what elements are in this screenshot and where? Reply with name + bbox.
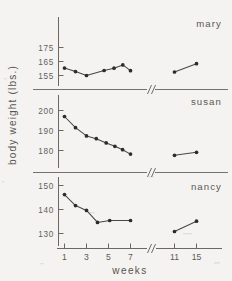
panel-susan-ytick-190: 190 (38, 127, 54, 136)
panel-mary-yticks: 175 165 155 (38, 44, 63, 81)
chart-canvas: 1 3 5 7 11 15 weeks body weight (lbs.) 1… (0, 0, 232, 281)
panel-mary-ytick-155: 155 (38, 72, 54, 81)
panel-mary-ytick-175: 175 (38, 44, 54, 53)
xtick-label-7: 7 (128, 252, 133, 262)
x-axis-tickmarks (65, 244, 197, 249)
panel-mary-series-mary (63, 62, 199, 77)
panel-mary-datapoints (63, 62, 199, 77)
panel-susan-yticks: 200 190 180 (38, 107, 63, 156)
panel-susan: 200 190 180 (38, 96, 222, 157)
xtick-label-3: 3 (84, 252, 89, 262)
panel-mary: 175 165 155 mary (38, 18, 222, 81)
panel-label-nancy: nancy (191, 181, 222, 192)
panel-susan-series-susan (63, 115, 199, 157)
panel-nancy-ytick-140: 140 (38, 206, 54, 215)
xtick-label-1: 1 (62, 252, 67, 262)
x-axis: 1 3 5 7 11 15 weeks (57, 244, 222, 276)
panel-nancy-datapoints (63, 193, 199, 234)
panel-separator-susan-nancy (33, 168, 228, 177)
xtick-label-5: 5 (106, 252, 111, 262)
xtick-label-11: 11 (170, 252, 179, 262)
panel-label-susan: susan (191, 96, 222, 107)
panel-nancy-yticks: 150 140 130 (38, 182, 63, 239)
panel-susan-datapoints (63, 115, 199, 157)
body-weight-multi-panel-chart: 1 3 5 7 11 15 weeks body weight (lbs.) 1… (0, 0, 232, 281)
panel-susan-ytick-200: 200 (38, 107, 54, 116)
panel-nancy: 150 140 130 nancy (38, 181, 222, 239)
panel-susan-ytick-180: 180 (38, 147, 54, 156)
xtick-label-15: 15 (192, 252, 202, 262)
panel-nancy-ytick-150: 150 (38, 182, 54, 191)
panel-label-mary: mary (196, 18, 222, 29)
x-axis-title: weeks (111, 265, 147, 276)
scan-noise (2, 78, 220, 264)
panel-mary-ytick-165: 165 (38, 58, 54, 67)
panel-nancy-ytick-130: 130 (38, 230, 54, 239)
y-axis-title: body weight (lbs.) (7, 65, 18, 165)
panel-separator-mary-susan (33, 85, 228, 94)
panel-nancy-series-nancy (63, 193, 199, 234)
